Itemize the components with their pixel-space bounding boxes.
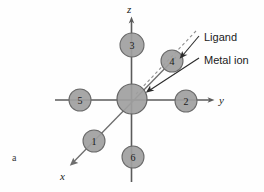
metal-ion-callout-label: Metal ion [204, 54, 249, 66]
ligand-number-5: 5 [78, 95, 83, 106]
z-axis-label: z [126, 3, 132, 15]
x-axis-label: x [59, 170, 65, 182]
ligand-callout-label: Ligand [204, 31, 237, 43]
ligand-number-6: 6 [131, 152, 136, 163]
ligand-site-2: 2 [175, 90, 197, 112]
ligand-callout-line [183, 36, 199, 55]
ligand-site-6: 6 [122, 146, 144, 168]
ligand-site-4: 4 [161, 50, 183, 72]
ligand-number-2: 2 [184, 96, 189, 107]
figure-canvas: z y x 5 2 3 6 [0, 0, 264, 192]
ligand-number-4: 4 [170, 56, 175, 67]
y-axis-label: y [218, 94, 224, 106]
ligand-site-1: 1 [83, 130, 105, 152]
metal-ion-center [117, 84, 147, 114]
octahedral-complex-figure: z y x 5 2 3 6 [0, 0, 264, 192]
ligand-number-3: 3 [130, 40, 135, 51]
ligand-site-5: 5 [69, 89, 91, 111]
axis-group-x: x [59, 57, 176, 182]
ligand-number-1: 1 [92, 136, 97, 147]
metal-ion-sphere [117, 84, 147, 114]
ligand-site-3: 3 [120, 33, 144, 57]
panel-label: a [12, 152, 17, 163]
